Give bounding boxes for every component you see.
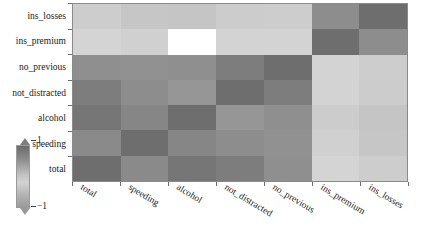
heatmap-cell [168,4,216,29]
heatmap-cell [73,80,121,105]
x-axis-labels: totalspeedingalcoholnot_distractedno_pre… [72,182,408,237]
colorbar-min-tick [31,206,36,207]
y-axis-labels: ins_lossesins_premiumno_previousnot_dist… [0,3,69,182]
heatmap-cell [121,105,169,130]
y-axis-tick-label: total [0,164,66,174]
heatmap-cell [216,130,264,155]
heatmap-cell [359,29,407,54]
heatmap-cell [264,29,312,54]
y-axis-tick-label: ins_premium [0,36,66,46]
heatmap-cell [312,156,360,181]
heatmap-cell [359,4,407,29]
x-axis-tick-label: alcohol [175,182,204,205]
heatmap-cell [216,4,264,29]
heatmap-cell [216,156,264,181]
x-axis-tick-label: speeding [127,182,161,208]
heatmap-figure: ins_lossesins_premiumno_previousnot_dist… [0,0,429,237]
heatmap-cell [312,130,360,155]
heatmap-cell [121,29,169,54]
heatmap-cell [168,29,216,54]
heatmap-cell [312,29,360,54]
heatmap-cell [168,105,216,130]
heatmap-cell [73,4,121,29]
heatmap-cell [121,130,169,155]
heatmap-cell [121,4,169,29]
heatmap-cell [359,55,407,80]
heatmap-cell [73,130,121,155]
heatmap-cell [168,156,216,181]
heatmap-cell [73,156,121,181]
heatmap-grid [73,4,407,181]
heatmap-cell [312,105,360,130]
heatmap-cell [264,130,312,155]
x-axis-tick-label: ins_premium [319,182,367,216]
y-axis-tick-label: not_distracted [0,88,66,98]
x-axis-tick-label: ins_losses [367,182,405,210]
x-axis-tick-mark [408,182,409,186]
colorbar [16,145,30,208]
heatmap-cell [264,4,312,29]
heatmap-cell [359,80,407,105]
heatmap-cell [216,80,264,105]
colorbar-extend-min-arrow-icon [20,208,30,215]
x-axis-tick-label: no_previous [271,182,316,215]
heatmap-cell [264,156,312,181]
heatmap-cell [312,55,360,80]
heatmap-cell [121,80,169,105]
heatmap-cell [168,55,216,80]
heatmap-cell [312,80,360,105]
heatmap-plot-area [72,3,408,182]
heatmap-cell [359,130,407,155]
heatmap-cell [121,55,169,80]
x-axis-tick-label: not_distracted [223,182,274,218]
heatmap-cell [168,80,216,105]
heatmap-cell [264,55,312,80]
heatmap-cell [168,130,216,155]
heatmap-cell [121,156,169,181]
colorbar-max-tick [31,140,36,141]
heatmap-cell [73,105,121,130]
heatmap-cell [73,55,121,80]
x-axis-tick-label: total [79,182,99,199]
y-axis-tick-label: no_previous [0,62,66,72]
heatmap-cell [359,105,407,130]
heatmap-cell [359,156,407,181]
heatmap-cell [216,29,264,54]
heatmap-cell [312,4,360,29]
heatmap-cell [264,80,312,105]
heatmap-cell [264,105,312,130]
y-axis-tick-label: ins_losses [0,11,66,21]
colorbar-extend-max-arrow-icon [20,138,30,145]
heatmap-cell [216,55,264,80]
colorbar-max-label: 1 [37,135,42,145]
heatmap-cell [73,29,121,54]
colorbar-min-label: −1 [37,201,47,211]
heatmap-cell [216,105,264,130]
y-axis-tick-label: alcohol [0,113,66,123]
